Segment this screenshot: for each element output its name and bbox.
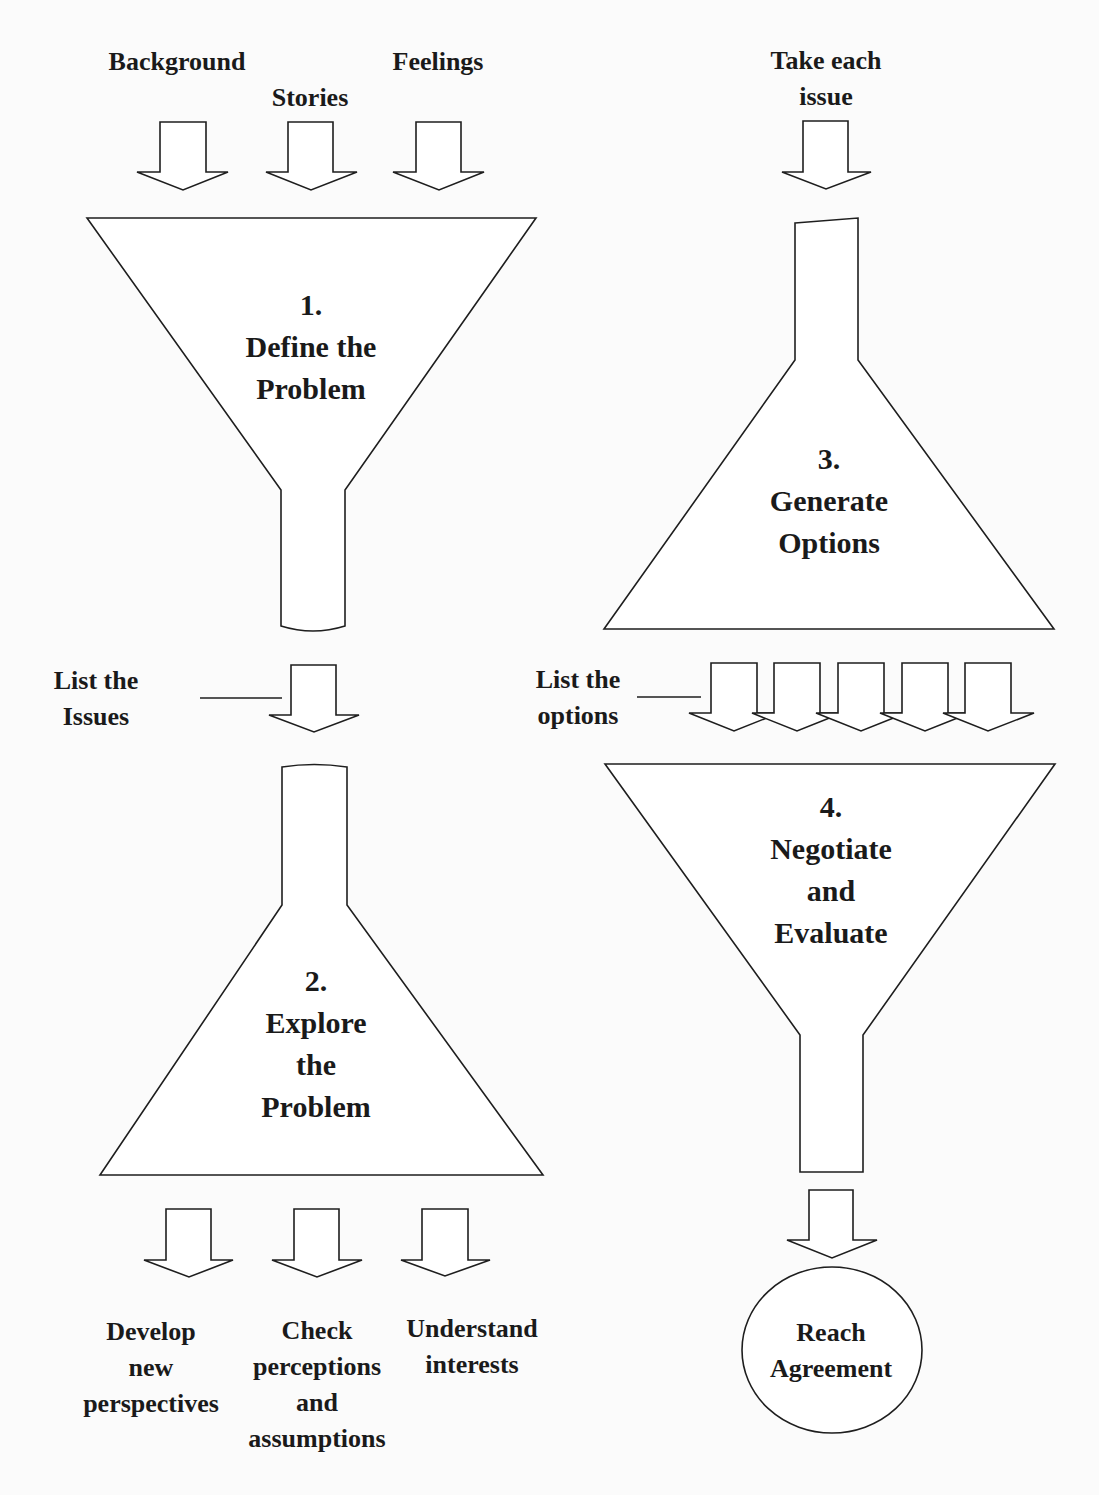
stage-1-label: 1. Define the Problem [246, 284, 377, 410]
output-label-develop: Develop new perspectives [83, 1314, 219, 1422]
arrow-down-icon [144, 1209, 233, 1277]
output-label-check: Check perceptions and assumptions [248, 1313, 385, 1457]
funnel-generate-options [604, 218, 1054, 629]
arrow-down-icon [816, 663, 906, 731]
input-label-background: Background [109, 44, 246, 80]
arrow-down-icon [401, 1209, 490, 1276]
stage-4-label: 4. Negotiate and Evaluate [770, 786, 892, 954]
arrow-down-icon [782, 121, 871, 189]
funnel-diagram [0, 0, 1099, 1495]
arrow-down-icon [943, 663, 1034, 731]
arrow-down-icon [689, 663, 779, 731]
arrow-down-icon [266, 122, 357, 190]
funnel-define-problem [87, 218, 536, 631]
stage-2-label: 2. Explore the Problem [261, 960, 370, 1128]
input-label-feelings: Feelings [393, 44, 484, 80]
arrow-down-icon [880, 663, 970, 731]
input-label-stories: Stories [272, 80, 349, 116]
arrow-down-icon [787, 1190, 877, 1258]
arrow-down-icon [137, 122, 228, 190]
result-label: Reach Agreement [770, 1315, 892, 1387]
input-label-take-each-issue: Take each issue [771, 43, 882, 115]
stage-3-label: 3. Generate Options [770, 438, 888, 564]
arrow-down-icon [393, 122, 484, 190]
arrow-down-icon [752, 663, 842, 731]
output-label-understand: Understand interests [406, 1311, 537, 1383]
arrow-down-icon [269, 665, 359, 732]
arrow-down-icon [272, 1209, 362, 1277]
connector-label-list-options: List the options [536, 662, 621, 734]
connector-label-list-issues: List the Issues [54, 663, 139, 735]
